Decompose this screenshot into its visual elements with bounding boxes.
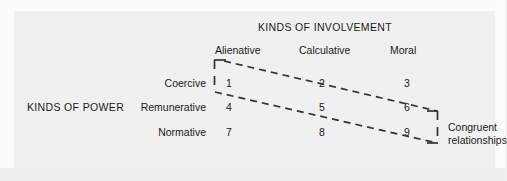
cell-5: 5	[315, 101, 329, 113]
cell-2: 2	[315, 77, 329, 89]
cell-8: 8	[315, 126, 329, 138]
row-header-normative: Normative	[106, 126, 206, 138]
cell-1: 1	[222, 77, 236, 89]
paper-edge-bottom	[0, 168, 505, 181]
cell-3: 3	[400, 77, 414, 89]
cell-4: 4	[222, 101, 236, 113]
cell-9: 9	[400, 126, 414, 138]
figure-panel	[14, 11, 495, 168]
congruent-annotation-line2: relationships	[448, 134, 507, 147]
paper-edge-right	[495, 0, 505, 181]
column-header-moral: Moral	[390, 44, 416, 56]
cell-6: 6	[400, 101, 414, 113]
row-header-coercive: Coercive	[106, 77, 206, 89]
column-header-calculative: Calculative	[299, 44, 350, 56]
column-group-title: KINDS OF INVOLVEMENT	[258, 21, 392, 33]
row-header-remunerative: Remunerative	[106, 101, 206, 113]
paper-edge-left	[0, 0, 14, 181]
congruent-annotation-line1: Congruent	[448, 121, 497, 134]
column-header-alienative: Alienative	[215, 44, 261, 56]
paper-edge-top	[0, 0, 505, 11]
cell-7: 7	[222, 126, 236, 138]
